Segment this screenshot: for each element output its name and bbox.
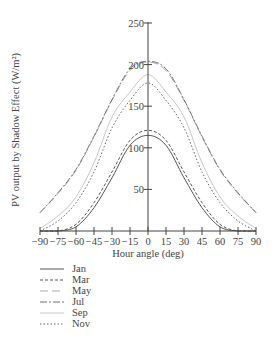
x-axis-title: Hour angle (deg) xyxy=(112,248,184,260)
legend-swatch-dashed-icon xyxy=(40,274,64,285)
x-tick-label: −15 xyxy=(122,236,138,247)
x-tick-label: 75 xyxy=(233,236,244,247)
legend-item-nov: Nov xyxy=(40,318,91,329)
y-tick-label: 200 xyxy=(128,60,144,71)
legend-item-sep: Sep xyxy=(40,307,91,318)
legend-item-jul: Jul xyxy=(40,296,91,307)
y-axis-title: PV output by Shadow Effect (W/m²) xyxy=(10,52,22,207)
legend-item-mar: Mar xyxy=(40,274,91,285)
x-tick-label: 60 xyxy=(215,236,226,247)
x-tick-label: −90 xyxy=(32,236,48,247)
x-tick-label: 15 xyxy=(161,236,172,247)
legend-swatch-dashdot-icon xyxy=(40,296,64,307)
legend-label: Sep xyxy=(72,307,88,318)
x-tick-label: −45 xyxy=(86,236,102,247)
y-tick-label: 250 xyxy=(128,18,144,29)
legend-swatch-dotted-icon xyxy=(40,318,64,329)
x-tick-label: 90 xyxy=(251,236,262,247)
x-tick-label: 45 xyxy=(197,236,208,247)
legend-label: May xyxy=(72,285,91,296)
pv-output-chart: −90−75−60−45−30−150153045607590 50100150… xyxy=(0,0,276,260)
legend-label: Jan xyxy=(72,263,86,274)
legend: Jan Mar May Jul Sep Nov xyxy=(40,263,91,329)
legend-item-may: May xyxy=(40,285,91,296)
x-tick-label: 30 xyxy=(179,236,190,247)
legend-swatch-solid-icon xyxy=(40,263,64,274)
x-tick-label: −30 xyxy=(104,236,120,247)
legend-label: Nov xyxy=(72,318,90,329)
y-tick-label: 150 xyxy=(128,101,144,112)
x-tick-label: 0 xyxy=(145,236,150,247)
legend-label: Mar xyxy=(72,274,90,285)
y-tick-label: 50 xyxy=(134,184,145,195)
x-tick-label: −60 xyxy=(68,236,84,247)
y-tick-label: 100 xyxy=(128,143,144,154)
y-axis: 50100150200250 xyxy=(128,18,152,231)
legend-label: Jul xyxy=(72,296,84,307)
x-tick-label: −75 xyxy=(50,236,66,247)
legend-item-jan: Jan xyxy=(40,263,91,274)
legend-swatch-longdash-icon xyxy=(40,285,64,296)
legend-swatch-solid-light-icon xyxy=(40,307,64,318)
